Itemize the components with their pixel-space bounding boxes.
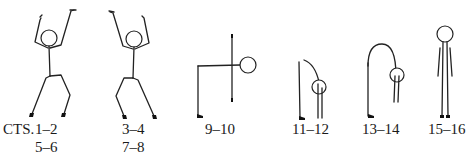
figure-1-torso [49,46,50,76]
figure-1-left-hand [40,15,42,17]
figure-2-left-foot [122,115,127,119]
figure-1-counts-line-2: 5–6 [35,140,58,155]
figure-5-deep-bend [368,44,404,118]
figure-3-top-hand [231,34,233,38]
figure-6-right-foot [446,115,450,118]
figure-2-right-leg [133,78,154,116]
figure-6-counts: 15–16 [428,122,466,137]
figure-2-head [126,31,142,47]
figure-4-foot [299,116,305,120]
figure-3-forward-bend [197,34,256,118]
figure-1-counts-line-1: 1–2 [35,122,58,137]
figure-6-left-foot [440,115,444,118]
figure-6-head [437,26,453,42]
figure-4-forward-hang [299,60,326,120]
figure-1-right-foot [61,113,66,117]
figure-4-legs [299,62,300,118]
figure-4-head [312,80,326,94]
exercise-diagram: CTS. 1–2 5–6 3–4 7–8 9–10 11–12 13–14 15… [0,0,469,156]
figure-4-counts: 11–12 [292,122,329,137]
figure-1-right-leg [50,75,70,114]
figure-3-torso [198,65,240,66]
figure-2-counts-line-2: 7–8 [122,140,145,155]
figure-6-standing [437,26,453,118]
figure-1-head [41,30,57,46]
figure-3-counts: 9–10 [205,122,235,137]
figure-6-arms [438,48,452,76]
figure-2-counts-line-1: 3–4 [122,122,145,137]
counts-prefix: CTS. [3,122,34,137]
figure-1-arms-up [29,10,76,117]
figure-5-foot [368,114,374,118]
figure-5-counts: 13–14 [362,122,400,137]
figure-3-foot [197,114,203,118]
figure-2-left-leg [116,78,133,116]
figure-1-left-leg [32,76,50,114]
figure-5-head [390,68,404,82]
figure-6-body-legs [442,42,448,116]
figure-3-head [240,57,256,73]
figure-2-right-foot [152,115,157,119]
figure-2-torso [133,47,134,78]
figure-1-left-foot [29,113,34,117]
figure-3-bottom-hand [231,98,233,102]
figure-4-back [304,60,319,82]
figure-2-arms-up [109,11,157,119]
